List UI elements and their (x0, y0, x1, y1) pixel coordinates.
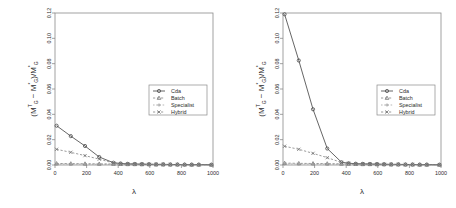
y-tick-label: 0.04 (274, 109, 280, 120)
two-panel-figure: 020040060080010000.000.020.040.060.080.1… (0, 0, 456, 208)
chart-panel-left: 020040060080010000.000.020.040.060.080.1… (0, 0, 228, 208)
x-tick-label: 600 (373, 170, 382, 176)
y-tick-label: 0.08 (274, 58, 280, 69)
legend-label-hybrid[interactable]: Hybrid (399, 109, 415, 115)
x-axis-title: λ (132, 187, 136, 196)
x-tick-label: 1000 (207, 170, 219, 176)
chart-svg: 020040060080010000.000.020.040.060.080.1… (228, 0, 456, 208)
series-line-hybrid (285, 146, 440, 165)
legend-label-cda[interactable]: Cda (399, 88, 409, 94)
x-tick-label: 0 (282, 170, 285, 176)
legend-label-batch[interactable]: Batch (399, 95, 413, 101)
y-tick-label: 0.12 (46, 8, 52, 19)
y-axis-title: (MTG − M*G)/M*G (255, 61, 267, 116)
y-tick-label: 0.10 (274, 33, 280, 44)
x-tick-label: 400 (342, 170, 351, 176)
chart-svg: 020040060080010000.000.020.040.060.080.1… (0, 0, 228, 208)
series-line-cda (57, 126, 212, 165)
x-tick-label: 400 (114, 170, 123, 176)
x-axis-title: λ (360, 187, 364, 196)
y-tick-label: 0.10 (46, 33, 52, 44)
y-tick-label: 0.12 (274, 8, 280, 19)
x-tick-label: 200 (82, 170, 91, 176)
svg-text:(MTG − M*G)/M*G: (MTG − M*G)/M*G (27, 61, 39, 116)
y-tick-label: 0.02 (274, 134, 280, 145)
x-tick-label: 800 (177, 170, 186, 176)
x-tick-label: 800 (405, 170, 414, 176)
legend-label-batch[interactable]: Batch (171, 95, 185, 101)
y-axis-title: (MTG − M*G)/M*G (27, 61, 39, 116)
chart-panel-right: 020040060080010000.000.020.040.060.080.1… (228, 0, 456, 208)
legend-label-specialist[interactable]: Specialist (171, 102, 195, 108)
x-tick-label: 200 (310, 170, 319, 176)
y-tick-label: 0.04 (46, 109, 52, 120)
x-tick-label: 0 (54, 170, 57, 176)
y-tick-label: 0.06 (46, 84, 52, 95)
y-tick-label: 0.02 (46, 134, 52, 145)
y-tick-label: 0.08 (46, 58, 52, 69)
legend-label-hybrid[interactable]: Hybrid (171, 109, 187, 115)
svg-text:(MTG − M*G)/M*G: (MTG − M*G)/M*G (255, 61, 267, 116)
y-tick-label: 0.00 (46, 160, 52, 171)
x-tick-label: 1000 (435, 170, 447, 176)
x-tick-label: 600 (145, 170, 154, 176)
legend-label-cda[interactable]: Cda (171, 88, 181, 94)
y-tick-label: 0.06 (274, 84, 280, 95)
legend-label-specialist[interactable]: Specialist (399, 102, 423, 108)
y-tick-label: 0.00 (274, 160, 280, 171)
